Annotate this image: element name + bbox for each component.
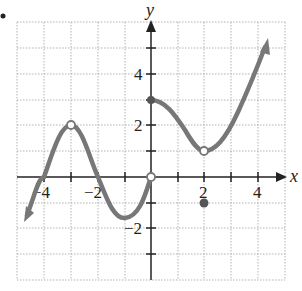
y-tick-label: −2 <box>124 219 142 238</box>
x-axis-label: x <box>289 166 298 186</box>
x-tick-label: 4 <box>253 183 262 202</box>
open-circle-point <box>67 121 75 129</box>
curve-piece-1 <box>27 125 151 218</box>
axes <box>17 28 280 280</box>
y-axis-label: y <box>144 0 154 20</box>
function-graph: −4 −2 2 4 4 2 −2 x y <box>0 0 302 291</box>
y-tick-label: 2 <box>134 116 143 135</box>
closed-point <box>200 199 209 208</box>
curve-piece-2 <box>151 47 265 151</box>
open-circle-point <box>147 173 155 181</box>
y-tick-label: 4 <box>134 65 143 84</box>
problem-bullet <box>1 14 6 19</box>
closed-point <box>147 96 155 104</box>
open-circle-point <box>200 147 208 155</box>
